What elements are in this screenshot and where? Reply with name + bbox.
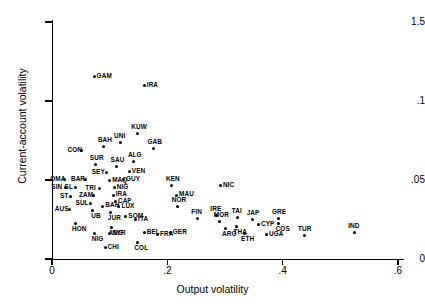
data-point [257, 223, 260, 226]
data-point-label: IRA [147, 82, 158, 88]
data-point [105, 171, 108, 174]
data-point [115, 165, 118, 168]
data-point-label: ITA [138, 216, 148, 222]
data-point [277, 217, 280, 220]
y-axis-line [52, 20, 53, 260]
data-point [94, 163, 97, 166]
data-point [117, 205, 120, 208]
data-point [128, 170, 131, 173]
data-point-label: BAH [98, 137, 112, 143]
data-point-label: NIG [92, 236, 104, 242]
data-point [104, 246, 107, 249]
data-point-label: SYR [112, 230, 125, 236]
data-point [196, 217, 199, 220]
data-point-label: OMA [50, 176, 65, 182]
data-point-label: ETH [241, 236, 254, 242]
data-point-label: KUW [131, 124, 147, 130]
data-point-label: ZAM [79, 192, 93, 198]
data-point-label: UNI [114, 133, 125, 139]
data-point-label: MOR [214, 212, 229, 218]
data-point-label: IND [348, 223, 359, 229]
data-point-label: UGA [269, 231, 284, 237]
data-point-label: NOR [172, 197, 187, 203]
y-axis-title: Current-account volatility [16, 46, 28, 206]
data-point-label: GUY [126, 176, 140, 182]
data-point [152, 147, 155, 150]
data-point [303, 234, 306, 237]
data-point [143, 231, 146, 234]
data-point [112, 194, 115, 197]
data-point [98, 187, 101, 190]
x-tick-label: 0 [32, 266, 72, 276]
data-point-label: GRE [272, 209, 286, 215]
data-point [136, 132, 139, 135]
data-point-label: ST [60, 193, 68, 199]
x-tick-label: .4 [263, 266, 303, 276]
data-point-label: TUR [298, 226, 311, 232]
data-point-label: SUL [76, 200, 89, 206]
x-axis-title: Output volatility [0, 283, 425, 295]
y-tick-label: 0 [383, 254, 425, 264]
data-point-label: SEY [92, 169, 105, 175]
data-point [89, 202, 92, 205]
data-point [122, 178, 125, 181]
data-point-label: SAU [111, 157, 125, 163]
data-point [69, 195, 72, 198]
data-point [170, 184, 173, 187]
y-tick-label: .05 [383, 175, 425, 185]
x-tick-label: .6 [378, 266, 418, 276]
data-point [353, 231, 356, 234]
data-point-label: GAM [97, 73, 112, 79]
data-point-label: GAB [147, 139, 162, 145]
data-point [219, 184, 222, 187]
data-point-label: KEN [166, 176, 180, 182]
data-point [74, 186, 77, 189]
data-point [102, 145, 105, 148]
data-point [176, 205, 179, 208]
data-point [156, 233, 159, 236]
x-axis-line [52, 259, 404, 260]
data-point-label: JUR [108, 215, 121, 221]
data-point-label: BAR [71, 176, 85, 182]
data-point-label: CON [67, 147, 82, 153]
data-point-label: CYP [261, 221, 274, 227]
data-point [251, 218, 254, 221]
data-point [108, 179, 111, 182]
data-point-label: NIC [223, 182, 234, 188]
data-point [124, 215, 127, 218]
data-point [132, 160, 135, 163]
data-point-label: COL [134, 245, 148, 251]
data-point-label: SUR [90, 155, 104, 161]
data-point [119, 141, 122, 144]
data-point [134, 218, 137, 221]
data-point-label: UB [91, 213, 100, 219]
data-point [113, 186, 116, 189]
data-point [93, 75, 96, 78]
data-point-label: JAP [247, 210, 260, 216]
data-point [101, 205, 104, 208]
data-point-label: SIN [51, 184, 62, 190]
data-point-label: HON [72, 226, 87, 232]
data-point-label: GER [173, 229, 187, 235]
scatter-plot-figure: 0.05.11.5 0.2.4.6 GAMIRAKUWUNIBAHGABCONA… [0, 0, 425, 307]
y-tick-mark [45, 21, 52, 22]
data-point-label: TAI [232, 208, 242, 214]
y-tick-mark [45, 100, 52, 101]
data-point [218, 220, 221, 223]
data-point-label: ALG [128, 152, 142, 158]
data-point-label: LUX [121, 203, 134, 209]
data-point [236, 216, 239, 219]
data-point-label: AUS [55, 206, 69, 212]
y-tick-label: 1.5 [383, 17, 425, 27]
y-tick-label: .1 [383, 96, 425, 106]
data-point-label: SL [65, 184, 73, 190]
data-point-label: FIN [191, 209, 202, 215]
data-point-label: VEN [132, 168, 145, 174]
data-point-label: CHI [108, 244, 119, 250]
data-point [265, 233, 268, 236]
data-point [143, 84, 146, 87]
x-tick-label: .2 [147, 266, 187, 276]
